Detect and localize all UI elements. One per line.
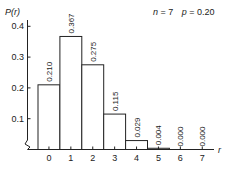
value-label: 0.275 <box>89 41 98 62</box>
value-label: 0.210 <box>45 61 54 82</box>
chart-svg: 0.10.20.30.4 01234567 0.2100.3670.2750.1… <box>0 0 231 169</box>
x-tick-label: 1 <box>68 153 73 163</box>
y-tick-label: 0.1 <box>11 114 24 124</box>
x-tick-label: 5 <box>156 153 161 163</box>
x-tick-label: 0 <box>46 153 51 163</box>
y-axis-label: P(r) <box>5 7 20 17</box>
value-label: 0.115 <box>111 91 120 111</box>
bar-0 <box>38 85 60 150</box>
axis-break-icon <box>25 140 30 150</box>
x-tick-label: 4 <box>134 153 139 163</box>
bar-1 <box>60 36 82 149</box>
value-label: 0.029 <box>133 117 142 138</box>
bars <box>38 36 169 149</box>
y-tick-label: 0.4 <box>11 21 24 31</box>
y-tick-label: 0.2 <box>11 83 24 93</box>
p-value: = 0.20 <box>189 7 214 17</box>
x-axis-label: r <box>218 145 222 155</box>
x-tick-label: 2 <box>90 153 95 163</box>
value-label: 0.000 <box>198 126 207 147</box>
bar-2 <box>82 65 104 150</box>
value-label: 0.367 <box>67 13 76 34</box>
y-tick-label: 0.3 <box>11 52 24 62</box>
x-tick-label: 7 <box>200 153 205 163</box>
value-label: 0.004 <box>154 125 163 146</box>
x-tick-label: 3 <box>112 153 117 163</box>
parameters-annotation: n = 7 p = 0.20 <box>153 7 215 17</box>
bar-3 <box>104 114 126 149</box>
n-value: = 7 <box>161 7 174 17</box>
x-tick-label: 6 <box>178 153 183 163</box>
n-label: n <box>153 7 158 17</box>
binomial-distribution-chart: 0.10.20.30.4 01234567 0.2100.3670.2750.1… <box>0 0 231 169</box>
p-label: p <box>181 7 187 17</box>
value-label: 0.000 <box>176 126 185 147</box>
